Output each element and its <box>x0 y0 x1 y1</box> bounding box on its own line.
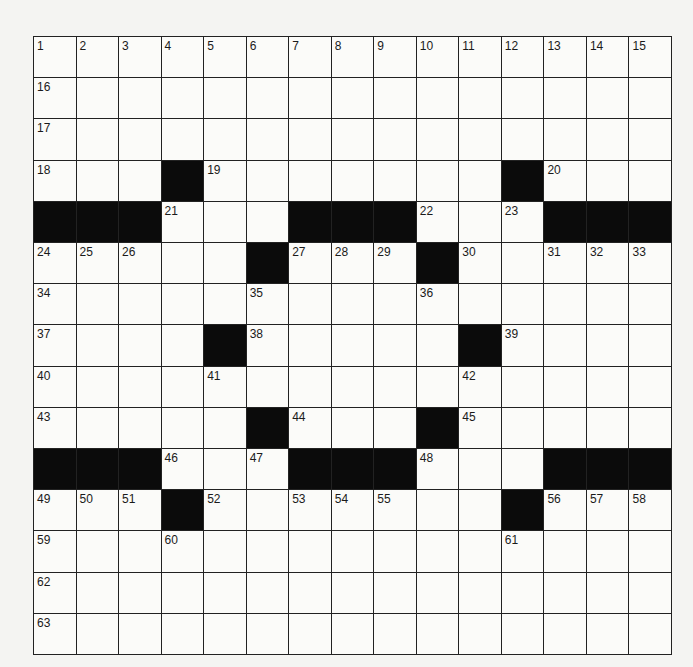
letter-cell[interactable]: 60 <box>162 531 204 571</box>
letter-cell[interactable] <box>204 243 246 283</box>
letter-cell[interactable] <box>459 531 501 571</box>
letter-cell[interactable] <box>629 408 671 448</box>
letter-cell[interactable]: 30 <box>459 243 501 283</box>
letter-cell[interactable]: 23 <box>502 202 544 242</box>
letter-cell[interactable] <box>332 161 374 201</box>
letter-cell[interactable] <box>374 284 416 324</box>
letter-cell[interactable] <box>204 573 246 613</box>
letter-cell[interactable]: 26 <box>119 243 161 283</box>
letter-cell[interactable] <box>289 78 331 118</box>
letter-cell[interactable] <box>629 119 671 159</box>
letter-cell[interactable] <box>629 573 671 613</box>
letter-cell[interactable] <box>417 367 459 407</box>
letter-cell[interactable]: 62 <box>34 573 76 613</box>
letter-cell[interactable] <box>119 78 161 118</box>
letter-cell[interactable]: 56 <box>544 490 586 530</box>
letter-cell[interactable] <box>162 367 204 407</box>
letter-cell[interactable] <box>544 78 586 118</box>
letter-cell[interactable]: 41 <box>204 367 246 407</box>
letter-cell[interactable] <box>417 78 459 118</box>
letter-cell[interactable] <box>247 614 289 654</box>
letter-cell[interactable] <box>587 78 629 118</box>
letter-cell[interactable] <box>332 408 374 448</box>
letter-cell[interactable] <box>629 325 671 365</box>
letter-cell[interactable] <box>502 449 544 489</box>
letter-cell[interactable]: 36 <box>417 284 459 324</box>
letter-cell[interactable] <box>77 367 119 407</box>
letter-cell[interactable] <box>374 78 416 118</box>
letter-cell[interactable]: 35 <box>247 284 289 324</box>
letter-cell[interactable] <box>162 243 204 283</box>
letter-cell[interactable] <box>247 78 289 118</box>
letter-cell[interactable]: 5 <box>204 37 246 77</box>
letter-cell[interactable] <box>289 614 331 654</box>
letter-cell[interactable] <box>629 531 671 571</box>
letter-cell[interactable] <box>247 573 289 613</box>
letter-cell[interactable]: 47 <box>247 449 289 489</box>
letter-cell[interactable]: 59 <box>34 531 76 571</box>
letter-cell[interactable] <box>544 325 586 365</box>
letter-cell[interactable] <box>247 119 289 159</box>
letter-cell[interactable] <box>332 325 374 365</box>
letter-cell[interactable] <box>587 161 629 201</box>
letter-cell[interactable] <box>374 573 416 613</box>
letter-cell[interactable]: 8 <box>332 37 374 77</box>
letter-cell[interactable] <box>162 408 204 448</box>
letter-cell[interactable] <box>289 573 331 613</box>
letter-cell[interactable] <box>332 614 374 654</box>
letter-cell[interactable] <box>162 284 204 324</box>
letter-cell[interactable] <box>119 367 161 407</box>
letter-cell[interactable]: 46 <box>162 449 204 489</box>
letter-cell[interactable] <box>502 573 544 613</box>
letter-cell[interactable] <box>587 531 629 571</box>
letter-cell[interactable] <box>502 243 544 283</box>
letter-cell[interactable]: 16 <box>34 78 76 118</box>
letter-cell[interactable] <box>374 119 416 159</box>
letter-cell[interactable] <box>587 284 629 324</box>
letter-cell[interactable]: 18 <box>34 161 76 201</box>
letter-cell[interactable] <box>587 573 629 613</box>
letter-cell[interactable] <box>204 408 246 448</box>
letter-cell[interactable] <box>332 284 374 324</box>
letter-cell[interactable]: 1 <box>34 37 76 77</box>
letter-cell[interactable] <box>247 490 289 530</box>
letter-cell[interactable]: 14 <box>587 37 629 77</box>
letter-cell[interactable] <box>417 490 459 530</box>
letter-cell[interactable] <box>119 531 161 571</box>
letter-cell[interactable] <box>629 284 671 324</box>
letter-cell[interactable] <box>459 78 501 118</box>
letter-cell[interactable]: 63 <box>34 614 76 654</box>
letter-cell[interactable] <box>332 367 374 407</box>
letter-cell[interactable] <box>587 408 629 448</box>
letter-cell[interactable] <box>77 614 119 654</box>
letter-cell[interactable] <box>417 161 459 201</box>
letter-cell[interactable] <box>162 573 204 613</box>
letter-cell[interactable] <box>417 325 459 365</box>
letter-cell[interactable] <box>629 614 671 654</box>
letter-cell[interactable] <box>502 614 544 654</box>
letter-cell[interactable] <box>544 573 586 613</box>
letter-cell[interactable]: 43 <box>34 408 76 448</box>
letter-cell[interactable] <box>247 202 289 242</box>
letter-cell[interactable]: 34 <box>34 284 76 324</box>
letter-cell[interactable] <box>119 161 161 201</box>
letter-cell[interactable]: 31 <box>544 243 586 283</box>
letter-cell[interactable] <box>374 367 416 407</box>
letter-cell[interactable]: 38 <box>247 325 289 365</box>
letter-cell[interactable] <box>289 367 331 407</box>
letter-cell[interactable] <box>374 531 416 571</box>
letter-cell[interactable] <box>417 119 459 159</box>
letter-cell[interactable] <box>629 78 671 118</box>
letter-cell[interactable] <box>459 202 501 242</box>
letter-cell[interactable] <box>77 531 119 571</box>
letter-cell[interactable]: 37 <box>34 325 76 365</box>
letter-cell[interactable]: 53 <box>289 490 331 530</box>
letter-cell[interactable]: 21 <box>162 202 204 242</box>
letter-cell[interactable]: 4 <box>162 37 204 77</box>
letter-cell[interactable] <box>587 325 629 365</box>
letter-cell[interactable]: 27 <box>289 243 331 283</box>
letter-cell[interactable]: 13 <box>544 37 586 77</box>
letter-cell[interactable] <box>544 284 586 324</box>
letter-cell[interactable] <box>247 531 289 571</box>
letter-cell[interactable] <box>374 161 416 201</box>
